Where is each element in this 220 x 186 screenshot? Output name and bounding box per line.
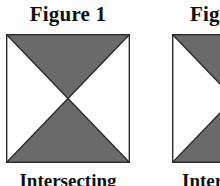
intersecting-diagonals-square-icon: [6, 34, 130, 163]
figure-2-title: Figure 2: [190, 1, 220, 27]
figure-2-diagram: [172, 34, 220, 163]
figure-1-diagram: [6, 34, 130, 163]
figure-1-block: Figure 1 Intersecting: [0, 0, 140, 186]
figure-1-title: Figure 1: [0, 1, 136, 27]
figure-1-caption: Intersecting: [0, 171, 136, 186]
figure-2-block: Figure 2 Intersecting: [166, 0, 220, 186]
intersecting-diagonals-square-icon: [172, 34, 220, 163]
figure-sheet: Figure 1 Intersecting Figure 2: [0, 0, 220, 186]
figure-2-caption: Intersecting: [182, 171, 220, 186]
